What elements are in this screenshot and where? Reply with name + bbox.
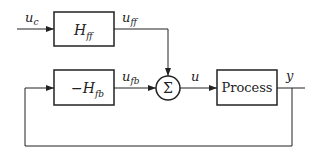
- control-block-diagram: uc Hff uff −Hfb ufb Σ u Process y: [0, 0, 319, 157]
- summing-junction: Σ: [156, 76, 180, 100]
- sigma-symbol: Σ: [163, 80, 173, 96]
- block-feedforward: Hff: [54, 12, 114, 46]
- block-feedback: −Hfb: [54, 70, 114, 105]
- label-uc: uc: [25, 10, 38, 27]
- label-u: u: [191, 69, 199, 84]
- signal-uff: uff: [114, 10, 168, 76]
- signal-uc: uc: [17, 10, 54, 29]
- label-y: y: [285, 68, 294, 83]
- label-uff: uff: [122, 10, 138, 27]
- label-process: Process: [221, 80, 272, 95]
- block-process: Process: [217, 70, 277, 105]
- signal-ufb: ufb: [114, 69, 156, 88]
- signal-y: y: [277, 68, 305, 88]
- signal-u: u: [180, 69, 217, 88]
- label-ufb: ufb: [122, 69, 140, 86]
